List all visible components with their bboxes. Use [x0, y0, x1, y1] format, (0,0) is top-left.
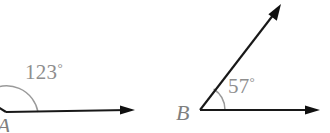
- angle-b-group: 57° B: [176, 4, 320, 125]
- angles-svg: 123° A 57° B: [0, 0, 330, 132]
- angle-b-horizontal-arrowhead-icon: [305, 106, 320, 115]
- diagram-canvas: 123° A 57° B: [0, 0, 330, 132]
- angle-b-measure-value: 57: [228, 74, 250, 98]
- angle-a-group: 123° A: [0, 60, 135, 133]
- angle-b-measure-label: 57°: [228, 74, 255, 99]
- angle-a-horizontal-ray: [6, 110, 128, 112]
- angle-a-degree-symbol: °: [57, 60, 63, 75]
- angle-a-horizontal-arrowhead-icon: [120, 106, 135, 115]
- angle-b-vertex-label: B: [176, 100, 189, 125]
- angle-a-measure-value: 123: [25, 60, 57, 84]
- angle-a-upper-left-ray: [0, 93, 6, 112]
- angle-a-measure-label: 123°: [25, 60, 63, 85]
- angle-a-vertex-label: A: [0, 113, 11, 132]
- angle-b-degree-symbol: °: [250, 74, 256, 89]
- angle-b-arc: [214, 89, 225, 110]
- angle-a-arc: [0, 86, 38, 112]
